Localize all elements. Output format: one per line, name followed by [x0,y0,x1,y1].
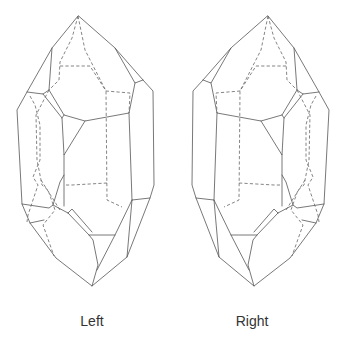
crystal-figure: Left Right [0,0,346,344]
left-crystal [17,16,154,286]
label-left: Left [62,313,122,329]
right-crystal [192,16,329,286]
label-right: Right [222,313,282,329]
crystal-drawings [0,0,346,344]
